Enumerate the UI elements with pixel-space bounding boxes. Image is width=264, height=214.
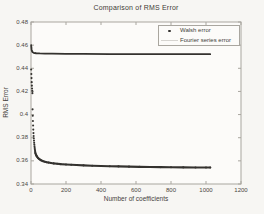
legend-item-fourier: Fourier series error — [159, 36, 239, 45]
walsh-data-point — [128, 166, 130, 168]
walsh-data-point — [91, 165, 93, 167]
x-tick-label: 1200 — [229, 187, 253, 194]
x-tick-label: 400 — [89, 187, 113, 194]
walsh-data-point — [47, 162, 49, 164]
walsh-data-point — [39, 158, 41, 160]
walsh-data-point — [170, 166, 172, 168]
walsh-data-point — [209, 167, 211, 169]
walsh-data-point — [33, 137, 35, 139]
walsh-data-point — [33, 140, 35, 142]
walsh-data-point — [159, 166, 161, 168]
walsh-data-point — [46, 161, 48, 163]
walsh-data-point — [30, 68, 32, 70]
walsh-data-point — [33, 142, 35, 144]
y-tick-label: 0.48 — [0, 19, 28, 26]
x-tick-label: 800 — [159, 187, 183, 194]
fourier-marker-zone — [159, 40, 180, 41]
axes-frame — [31, 22, 241, 184]
walsh-data-point — [70, 164, 72, 166]
walsh-data-point — [82, 164, 84, 166]
y-tick-label: 0.46 — [0, 42, 28, 49]
walsh-data-point — [33, 135, 35, 137]
x-tick-label: 200 — [54, 187, 78, 194]
walsh-data-point — [109, 165, 111, 167]
y-tick-label: 0.36 — [0, 157, 28, 164]
walsh-data-point — [31, 85, 33, 87]
legend-label-walsh: Walsh error — [180, 27, 211, 34]
y-tick-label: 0.42 — [0, 88, 28, 95]
y-tick-label: 0.38 — [0, 134, 28, 141]
y-tick-label: 0.44 — [0, 65, 28, 72]
walsh-data-point — [32, 132, 34, 134]
walsh-data-point — [31, 92, 33, 94]
legend-label-fourier: Fourier series error — [180, 37, 231, 44]
walsh-data-point — [31, 81, 33, 83]
walsh-data-point — [75, 164, 77, 166]
walsh-data-point — [149, 166, 151, 168]
legend: Walsh error Fourier series error — [158, 25, 240, 46]
walsh-data-point — [30, 73, 32, 75]
walsh-data-point — [194, 166, 196, 168]
walsh-data-point — [60, 163, 62, 165]
walsh-data-point — [117, 165, 119, 167]
walsh-data-point — [53, 162, 55, 164]
walsh-data-point — [31, 90, 33, 92]
walsh-data-point — [32, 108, 34, 110]
walsh-data-point — [44, 161, 46, 163]
walsh-data-point — [32, 125, 34, 127]
y-tick-label: 0.4 — [0, 111, 28, 118]
walsh-data-point — [50, 162, 52, 164]
walsh-data-point — [32, 115, 34, 117]
walsh-data-point — [138, 166, 140, 168]
walsh-marker-zone — [159, 30, 180, 32]
walsh-dot-marker-icon — [168, 30, 170, 32]
walsh-data-point — [32, 129, 34, 131]
fourier-line-marker-icon — [161, 40, 178, 41]
walsh-data-point — [32, 120, 34, 122]
x-tick-label: 0 — [19, 187, 43, 194]
walsh-data-point — [30, 77, 32, 79]
walsh-data-point — [56, 163, 58, 165]
legend-item-walsh: Walsh error — [159, 26, 239, 35]
walsh-data-point — [205, 167, 207, 169]
walsh-data-point — [31, 87, 33, 89]
x-tick-label: 600 — [124, 187, 148, 194]
x-tick-label: 1000 — [194, 187, 218, 194]
walsh-data-point — [100, 165, 102, 167]
walsh-data-point — [182, 166, 184, 168]
walsh-data-point — [65, 163, 67, 165]
rms-error-figure: Comparison of RMS Error RMS Error Number… — [0, 0, 264, 214]
